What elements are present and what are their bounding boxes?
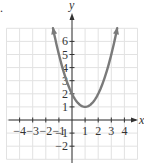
y-tick-label: 2 [62,87,68,101]
y-tick-label: 6 [62,34,68,48]
x-tick-label: 2 [95,124,101,138]
y-tick-label: −2 [55,139,68,153]
x-tick-label: 1 [82,124,88,138]
y-axis-label: y [68,0,75,12]
y-tick-label: 1 [62,100,68,114]
x-tick-label: 4 [121,124,127,138]
x-tick-label: −2 [39,124,52,138]
y-tick-label: 5 [62,48,68,62]
corner-mark: . [0,1,3,15]
axes [9,13,139,163]
x-axis-label: x [138,113,144,127]
y-axis-arrow-icon [70,13,75,20]
x-tick-label: −3 [26,124,39,138]
x-tick-label: 3 [108,124,114,138]
x-axis-arrow-icon [131,118,138,123]
parabola-graph: −4−3−2−11234−2−1123456 x y . [0,0,144,164]
y-tick-label: −1 [55,126,68,140]
x-tick-label: −4 [13,124,26,138]
